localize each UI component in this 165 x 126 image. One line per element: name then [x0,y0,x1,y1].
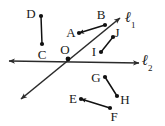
point-label-I: I [92,45,96,58]
point-dot-C [40,42,44,46]
point-dot-A [77,31,81,35]
point-dot-B [103,23,107,27]
point-dot-I [99,50,103,54]
point-dot-G [103,75,107,79]
point-dot-O [66,57,71,62]
segment-DC [41,16,42,44]
line-label-subscript-l2: 2 [148,63,153,73]
segment-GH [105,77,117,96]
line-l2 [9,61,139,63]
point-label-H: H [120,93,129,106]
point-label-A: A [66,26,75,39]
segment-EF [81,99,110,108]
geometry-figure: DCABOIJGHEF ℓ1ℓ2 [0,0,165,126]
point-label-D: D [26,7,35,20]
point-label-J: J [114,26,119,39]
segment-AB [79,25,105,33]
point-label-O: O [60,43,69,56]
segment-IJ [101,37,113,52]
point-label-B: B [97,8,106,21]
figure-canvas [0,0,165,126]
point-dot-D [39,14,43,18]
line-label-l2: ℓ2 [142,53,153,73]
point-dot-H [115,94,119,98]
point-dot-E [79,97,83,101]
point-label-G: G [91,71,100,84]
line-label-subscript-l1: 1 [131,20,136,30]
line-label-l1: ℓ1 [125,10,136,30]
point-label-C: C [38,48,47,61]
point-label-F: F [110,110,117,123]
point-label-E: E [69,92,77,105]
